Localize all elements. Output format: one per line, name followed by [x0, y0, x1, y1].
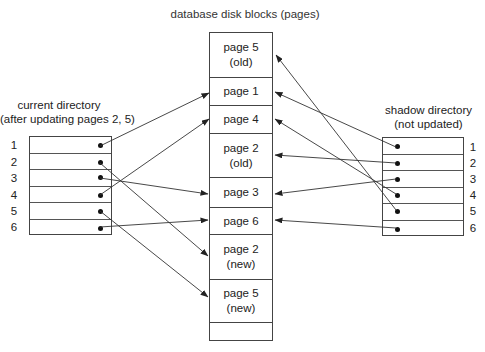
arrow-shadow-1-to-page1: [275, 92, 396, 147]
arrow-current-2-to-page2-new: [100, 163, 208, 256]
arrow-current-1-to-page1: [100, 93, 209, 146]
arrow-current-4-to-page4: [100, 119, 209, 195]
arrow-shadow-6-to-page6: [275, 220, 396, 228]
pointer-arrows: [0, 0, 485, 352]
arrow-current-3-to-page3: [100, 178, 208, 194]
